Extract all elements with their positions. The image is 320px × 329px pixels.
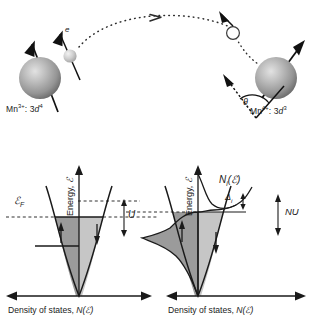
hole-circle — [227, 27, 240, 40]
left-dos-axis-label: Density of states, N(ℰ) — [8, 306, 93, 315]
theta-label: θ — [243, 98, 248, 107]
dos-panel: Energy, ℰ ℰF U Density of states, N(ℰ) E… — [0, 160, 320, 329]
right-impurity-lobe — [142, 212, 198, 296]
right-NU-arrow — [275, 194, 281, 236]
hop-path-dotted — [79, 15, 232, 47]
right-spin-down-fill — [198, 212, 250, 302]
left-energy-axis-label: Energy, ℰ — [66, 178, 75, 216]
electron-sphere — [63, 49, 76, 62]
fermi-level-label: ℰF — [14, 196, 24, 209]
exchange-NU-label: NU — [285, 207, 299, 217]
left-spin-up-fill — [30, 217, 79, 302]
mn4-label: Mn4+: 3d3 — [250, 106, 287, 115]
hopping-panel: Mn3+: 3d4 Mn4+: 3d3 e θ — [0, 0, 320, 160]
left-spin-down-fill — [79, 217, 129, 302]
electron-label: e — [65, 26, 69, 34]
delta-label: Δi — [225, 193, 232, 204]
mn3-label: Mn3+: 3d4 — [6, 104, 43, 113]
right-dos-axis — [166, 292, 306, 301]
mn3-sphere — [19, 57, 61, 99]
coulomb-U-label: U — [128, 210, 135, 220]
right-dos-curve-up-lower — [198, 205, 236, 212]
left-U-arrow — [121, 199, 127, 237]
right-band-fill — [150, 212, 250, 302]
right-dos-axis-label: Density of states, N(ℰ) — [168, 306, 253, 315]
dos-curve-label: Ni(ℰ) — [219, 175, 240, 188]
right-energy-axis-label: Energy, ℰ — [185, 178, 194, 216]
mn4-sphere — [255, 57, 297, 99]
hole-tail-dotted — [236, 38, 258, 64]
dos-svg — [0, 160, 320, 329]
hole-spin-arrow — [219, 11, 233, 26]
hopping-svg — [0, 0, 320, 160]
double-exchange-figure: Mn3+: 3d4 Mn4+: 3d3 e θ — [0, 0, 320, 329]
